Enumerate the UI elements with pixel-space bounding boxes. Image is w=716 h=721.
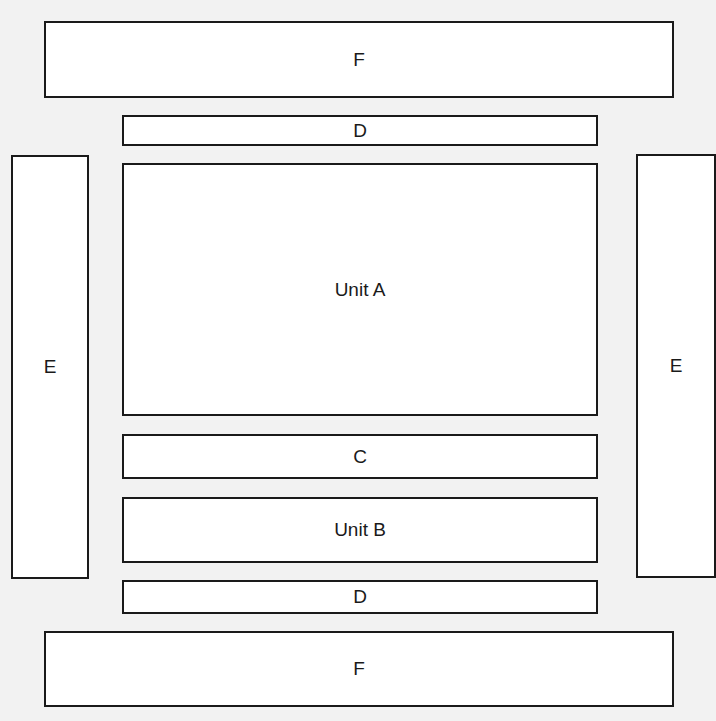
label-f-top: F	[353, 49, 365, 71]
label-unit-a: Unit A	[335, 279, 386, 301]
box-c: C	[122, 434, 598, 479]
box-d-top: D	[122, 115, 598, 146]
label-d-top: D	[353, 120, 367, 142]
box-f-bottom: F	[44, 631, 674, 707]
box-f-top: F	[44, 21, 674, 98]
box-e-left: E	[11, 155, 89, 579]
box-unit-b: Unit B	[122, 497, 598, 563]
box-unit-a: Unit A	[122, 163, 598, 416]
label-f-bottom: F	[353, 658, 365, 680]
label-d-bottom: D	[353, 586, 367, 608]
label-e-right: E	[670, 355, 683, 377]
label-e-left: E	[44, 356, 57, 378]
box-e-right: E	[636, 154, 716, 578]
label-c: C	[353, 446, 367, 468]
label-unit-b: Unit B	[334, 519, 386, 541]
box-d-bottom: D	[122, 580, 598, 614]
